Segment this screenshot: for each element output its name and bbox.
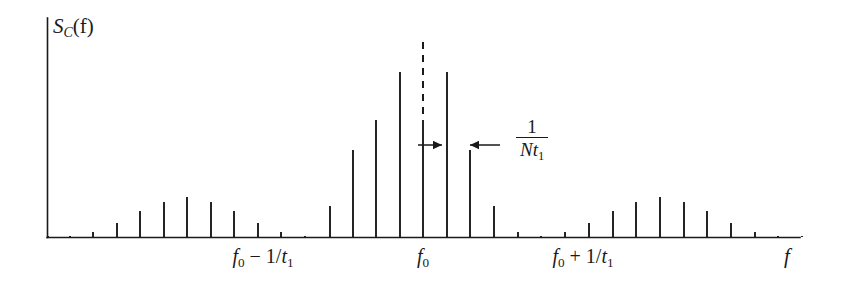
annotation-group <box>418 42 500 149</box>
line-spacing-arrows <box>470 141 500 149</box>
x-axis-label: f <box>784 246 790 267</box>
y-axis-label-subscript: C <box>64 25 73 40</box>
line-spacing-arrows <box>418 141 442 149</box>
y-axis-label-argument: (f) <box>73 14 94 38</box>
fraction-denominator: Nt1 <box>516 138 548 162</box>
tick-f0-minus: f0 − 1/t1 <box>232 246 293 269</box>
fraction-numerator: 1 <box>516 117 548 137</box>
tick-f0: f0 <box>417 246 429 269</box>
spectral-lines-group <box>48 72 802 237</box>
line-spacing-label: 1 Nt1 <box>516 117 548 162</box>
spectrum-figure: SC(f) f 1 Nt1 f0 − 1/t1f0f0 + 1/t1 <box>0 0 846 290</box>
y-axis-label-symbol: S <box>53 14 64 38</box>
tick-f0-plus: f0 + 1/t1 <box>552 246 613 269</box>
y-axis-label: SC(f) <box>53 16 94 40</box>
